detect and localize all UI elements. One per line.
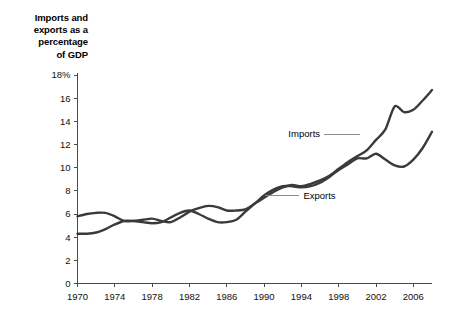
x-axis-tick-labels: 1970197419781982198619901994199820022006 — [67, 291, 424, 302]
line-chart-plot: 024681012141618% 19701974197819821986199… — [0, 0, 459, 316]
y-tick-label-18: 18% — [51, 69, 71, 80]
y-tick-label-6: 6 — [65, 208, 70, 219]
y-tick-label-0: 0 — [65, 278, 70, 289]
x-tick-label-1998: 1998 — [328, 291, 349, 302]
x-tick-label-1986: 1986 — [216, 291, 237, 302]
imports-series-label: Imports — [288, 128, 320, 139]
exports-series-label: Exports — [303, 190, 335, 201]
x-tick-label-1994: 1994 — [291, 291, 312, 302]
y-tick-label-16: 16 — [60, 93, 71, 104]
y-tick-label-4: 4 — [65, 232, 70, 243]
y-tick-label-12: 12 — [60, 139, 71, 150]
y-tick-label-2: 2 — [65, 255, 70, 266]
x-tick-label-1982: 1982 — [179, 291, 200, 302]
x-tick-label-1978: 1978 — [142, 291, 163, 302]
series-line-exports — [78, 132, 433, 234]
x-tick-label-1974: 1974 — [104, 291, 125, 302]
x-axis-ticks — [78, 284, 414, 288]
x-tick-label-2006: 2006 — [403, 291, 424, 302]
chart-container: Imports and exports as a percentage of G… — [0, 0, 459, 316]
y-axis: 024681012141618% — [51, 69, 77, 289]
x-tick-label-2002: 2002 — [365, 291, 386, 302]
x-axis: 1970197419781982198619901994199820022006 — [67, 284, 432, 302]
y-tick-label-14: 14 — [60, 116, 71, 127]
x-tick-label-1970: 1970 — [67, 291, 88, 302]
y-axis-tick-labels: 024681012141618% — [51, 69, 71, 289]
y-axis-ticks — [74, 75, 78, 284]
y-tick-label-10: 10 — [60, 162, 71, 173]
data-series-group — [78, 90, 433, 234]
y-tick-label-8: 8 — [65, 185, 70, 196]
x-tick-label-1990: 1990 — [254, 291, 275, 302]
